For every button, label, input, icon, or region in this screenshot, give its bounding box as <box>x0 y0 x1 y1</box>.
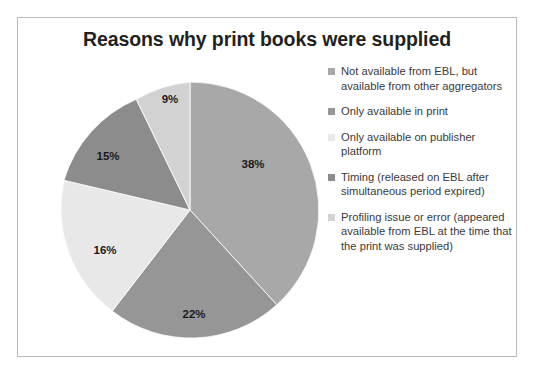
legend-item-label: Not available from EBL, but available fr… <box>341 64 513 93</box>
legend-item-3[interactable]: Timing (released on EBL after simultaneo… <box>328 170 513 199</box>
legend-swatch-icon <box>328 134 335 141</box>
legend-item-4[interactable]: Profiling issue or error (appeared avail… <box>328 210 513 254</box>
legend-swatch-icon <box>328 68 335 75</box>
legend-item-label: Timing (released on EBL after simultaneo… <box>341 170 513 199</box>
legend-swatch-icon <box>328 174 335 181</box>
pie-slice-label-2: 16% <box>93 244 116 256</box>
chart-frame: Reasons why print books were supplied 38… <box>17 17 517 357</box>
legend-item-label: Only available on publisher platform <box>341 130 513 159</box>
chart-legend: Not available from EBL, but available fr… <box>328 64 513 264</box>
legend-item-2[interactable]: Only available on publisher platform <box>328 130 513 159</box>
legend-item-0[interactable]: Not available from EBL, but available fr… <box>328 64 513 93</box>
pie-slice-label-0: 38% <box>241 158 264 170</box>
legend-swatch-icon <box>328 214 335 221</box>
chart-title: Reasons why print books were supplied <box>18 28 516 51</box>
pie-slice-label-1: 22% <box>182 308 205 320</box>
legend-item-1[interactable]: Only available in print <box>328 104 513 119</box>
legend-item-label: Profiling issue or error (appeared avail… <box>341 210 513 254</box>
pie-slice-label-3: 15% <box>96 150 119 162</box>
legend-swatch-icon <box>328 108 335 115</box>
pie-svg: 38% 22% 16% 15% 9% <box>59 79 321 341</box>
legend-item-label: Only available in print <box>341 104 448 119</box>
pie-slice-label-4: 9% <box>162 93 179 105</box>
pie-chart: 38% 22% 16% 15% 9% <box>59 79 321 341</box>
